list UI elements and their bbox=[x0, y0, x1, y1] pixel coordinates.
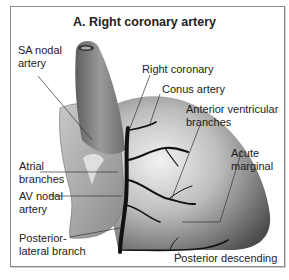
label-acute-marginal: Acute marginal bbox=[231, 147, 273, 173]
label-posterior-lateral-branch: Posterior- lateral branch bbox=[19, 232, 86, 258]
label-conus-artery: Conus artery bbox=[162, 83, 225, 96]
label-sa-nodal-artery: SA nodal artery bbox=[18, 44, 62, 70]
label-right-coronary: Right coronary bbox=[142, 63, 214, 76]
label-posterior-descending: Posterior descending bbox=[174, 252, 277, 265]
label-atrial-branches: Atrial branches bbox=[19, 160, 64, 186]
label-av-nodal-artery: AV nodal artery bbox=[19, 190, 63, 216]
aorta-shape bbox=[75, 41, 125, 154]
label-anterior-ventricular-branches: Anterior ventricular branches bbox=[186, 103, 278, 129]
